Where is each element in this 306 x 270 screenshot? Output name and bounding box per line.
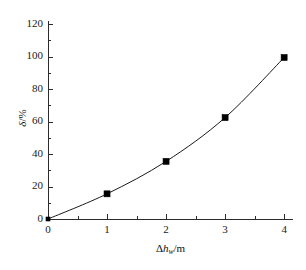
x-axis-delta: Δ xyxy=(156,242,163,254)
y-axis-tick-label: 20 xyxy=(32,179,43,191)
x-axis-tick-label: 3 xyxy=(213,223,237,235)
x-axis-tick-label: 0 xyxy=(36,223,60,235)
y-axis-symbol: δ xyxy=(16,122,28,127)
data-point-marker xyxy=(104,191,110,197)
y-axis-tick-label: 120 xyxy=(27,17,44,29)
y-axis-unit: /% xyxy=(16,109,28,121)
y-axis-tick-label: 100 xyxy=(27,49,44,61)
x-axis-unit: /m xyxy=(173,242,185,254)
y-axis-tick-label: 0 xyxy=(38,212,44,224)
data-point-marker xyxy=(46,217,50,221)
x-axis-tick-label: 1 xyxy=(95,223,119,235)
data-point-marker xyxy=(281,55,287,61)
y-axis-tick-label: 60 xyxy=(32,114,43,126)
x-axis-title: Δhw/m xyxy=(0,242,306,256)
y-axis-tick-label: 40 xyxy=(32,147,43,159)
data-series-line xyxy=(48,58,284,219)
y-axis-tick-label: 80 xyxy=(32,82,43,94)
data-point-marker xyxy=(163,158,169,164)
chart-container: δ/% Δhw/m 02040608010012001234 xyxy=(0,0,306,270)
data-point-marker xyxy=(222,115,228,121)
y-axis-title: δ/% xyxy=(16,98,28,138)
x-axis-tick-label: 2 xyxy=(154,223,178,235)
x-axis-tick-label: 4 xyxy=(272,223,296,235)
